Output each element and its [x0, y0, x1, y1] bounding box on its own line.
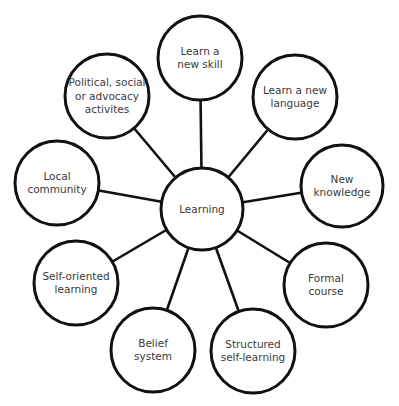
- node-label-line: Learn a new: [263, 84, 328, 96]
- nodes: Learn anew skillLearn a newlanguageNewkn…: [15, 16, 383, 393]
- node-label-line: Formal: [308, 272, 344, 284]
- center-node-learning: Learning: [161, 168, 243, 250]
- learning-mind-map: Learn anew skillLearn a newlanguageNewkn…: [0, 0, 399, 406]
- node-label-line: self-learning: [221, 351, 286, 363]
- node-new-knowledge: Newknowledge: [301, 145, 383, 227]
- node-political-social-advocacy: Political, socialor advocacyactivites: [65, 54, 149, 138]
- node-label-line: community: [27, 183, 86, 195]
- node-label-line: Self-oriented: [42, 270, 109, 282]
- node-learn-new-skill: Learn anew skill: [158, 16, 242, 100]
- node-label-line: Local: [43, 170, 70, 182]
- node-label-line: course: [308, 285, 343, 297]
- node-label-line: knowledge: [314, 186, 371, 198]
- node-label-line: language: [271, 97, 320, 109]
- node-label-line: activites: [85, 103, 129, 115]
- node-label-line: Belief: [138, 337, 168, 349]
- node-label-line: learning: [55, 283, 98, 295]
- node-label-line: Political, social: [69, 76, 146, 88]
- node-label-line: Learning: [179, 203, 225, 215]
- node-label-line: system: [134, 350, 172, 362]
- node-label-line: new skill: [177, 58, 222, 70]
- node-label-line: or advocacy: [75, 90, 139, 102]
- node-label-line: Structured: [225, 338, 281, 350]
- node-structured-self-learning: Structuredself-learning: [211, 309, 295, 393]
- node-belief-system: Beliefsystem: [111, 308, 195, 392]
- node-learn-new-language: Learn a newlanguage: [253, 55, 337, 139]
- node-local-community: Localcommunity: [15, 141, 99, 225]
- node-formal-course: Formalcourse: [284, 243, 368, 327]
- node-label-line: New: [331, 173, 354, 185]
- node-self-oriented-learning: Self-orientedlearning: [34, 241, 118, 325]
- node-label-line: Learn a: [180, 45, 219, 57]
